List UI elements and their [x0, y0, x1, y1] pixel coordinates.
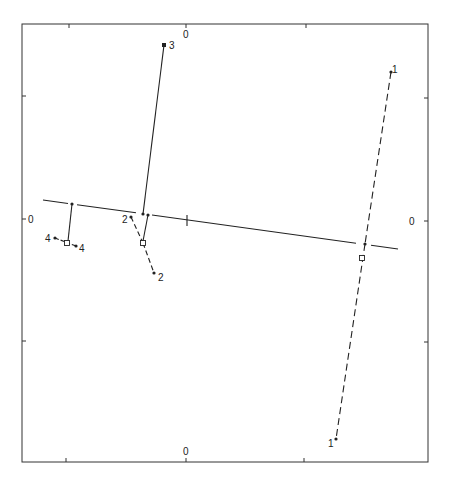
- label-2-upper: 2: [122, 214, 128, 225]
- line-point-4: [70, 202, 73, 205]
- top-ticks: [69, 24, 306, 28]
- group-4: [55, 204, 76, 246]
- left-zero-label: 0: [28, 214, 34, 225]
- group-3-line: [143, 45, 164, 214]
- top-zero-label: 0: [183, 29, 189, 40]
- point-3: [162, 43, 166, 47]
- projection-marker-4: [65, 241, 70, 246]
- label-4-right: 4: [79, 243, 85, 254]
- label-1-bottom: 1: [328, 438, 334, 449]
- projection-marker-2: [141, 241, 146, 246]
- label-4-left: 4: [45, 233, 51, 244]
- label-3: 3: [169, 40, 175, 51]
- projection-marker-1: [360, 256, 365, 261]
- left-ticks: [22, 96, 26, 341]
- diagram-canvas: 0 0 0 0 1 1 3 2 2 4 4: [0, 0, 450, 487]
- point-4-left: [53, 236, 56, 239]
- line-point-1: [363, 242, 366, 245]
- right-zero-label: 0: [409, 216, 415, 227]
- label-2-lower: 2: [158, 272, 164, 283]
- bottom-zero-label: 0: [183, 446, 189, 457]
- point-1-bottom: [334, 437, 337, 440]
- reference-line: [43, 200, 398, 249]
- line-point-2: [146, 213, 149, 216]
- point-4-right: [74, 244, 77, 247]
- line-point-3: [141, 212, 144, 215]
- point-2-lower: [152, 271, 155, 274]
- point-2-upper: [129, 215, 132, 218]
- bottom-ticks: [66, 458, 304, 462]
- right-ticks: [424, 98, 428, 342]
- label-1-top: 1: [392, 64, 398, 75]
